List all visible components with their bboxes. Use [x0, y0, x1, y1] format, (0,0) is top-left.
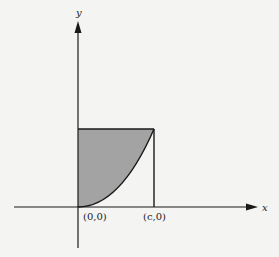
x-axis-label: x — [262, 202, 268, 213]
y-axis-arrow-icon — [75, 21, 82, 33]
diagram-canvas: y x (0,0) (c,0) — [0, 0, 279, 257]
x-axis-arrow-icon — [246, 204, 258, 211]
c-point-label: (c,0) — [143, 211, 166, 222]
y-axis-label: y — [75, 7, 82, 18]
origin-label: (0,0) — [83, 211, 107, 222]
diagram-figure: y x (0,0) (c,0) — [0, 0, 279, 257]
shaded-region — [78, 129, 154, 207]
